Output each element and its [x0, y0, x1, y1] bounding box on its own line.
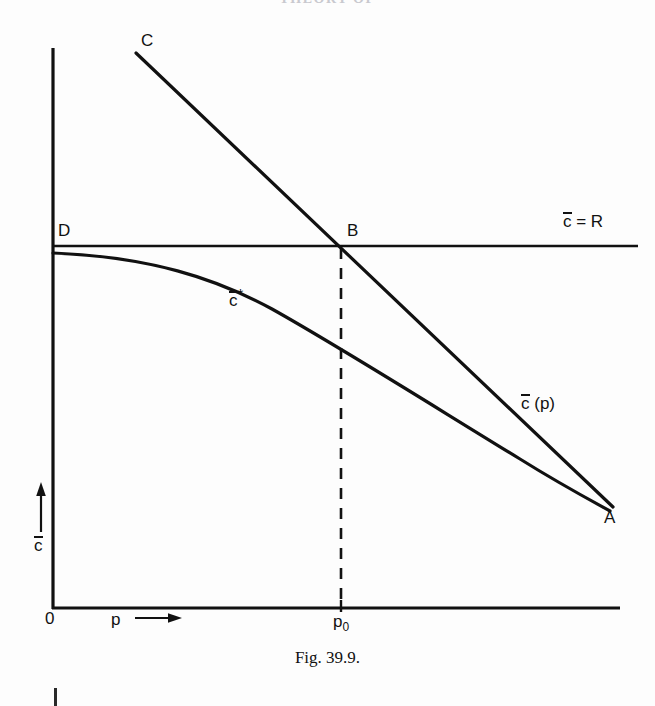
demand-label-rest: (p): [530, 394, 556, 413]
point-label-A: A: [604, 509, 615, 526]
reservation-label-rest: = R: [572, 212, 604, 231]
reservation-line-label: c = R: [563, 212, 603, 230]
x-axis-direction-arrow: [135, 613, 182, 623]
optimal-curve-c-star: [53, 253, 610, 511]
figure-caption: Fig. 39.9.: [0, 648, 655, 668]
point-label-C: C: [141, 32, 153, 49]
p0-subscript: 0: [342, 620, 349, 634]
figure-page: THEORY OF C B A D c = R: [0, 0, 655, 706]
c-bar-glyph-demand: c: [521, 394, 530, 412]
c-bar-glyph-y-axis: c: [34, 536, 43, 554]
y-axis-direction-arrow: [36, 482, 46, 532]
origin-label: 0: [45, 610, 54, 627]
optimal-star-glyph: *: [238, 285, 244, 302]
point-label-B: B: [347, 222, 358, 239]
economics-figure-graph: [0, 0, 655, 706]
page-edge-tick-mark: [54, 688, 57, 706]
y-axis-label: c: [34, 536, 43, 554]
point-label-D: D: [58, 222, 70, 239]
demand-line-label: c (p): [521, 394, 555, 412]
x-axis-label: p: [111, 611, 120, 628]
c-bar-glyph-reservation: c: [563, 212, 572, 230]
x-axis-tick-label-p0: p0: [333, 613, 349, 630]
optimal-curve-label: c*: [229, 291, 243, 309]
c-bar-glyph-optimal: c: [229, 291, 238, 309]
